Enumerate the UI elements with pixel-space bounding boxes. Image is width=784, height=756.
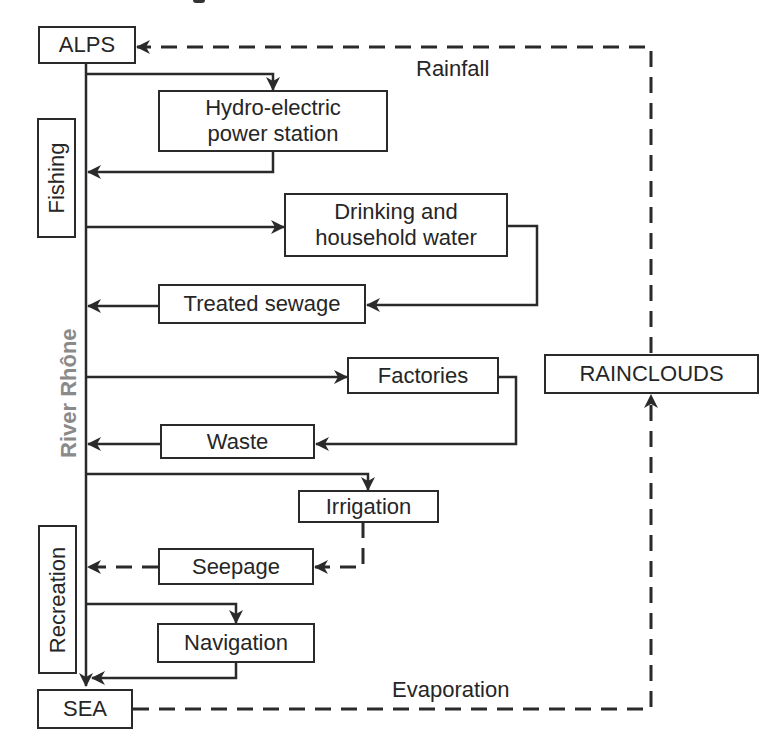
node-treated-sewage-label: Treated sewage [184, 291, 341, 317]
node-fishing-label: Fishing [44, 143, 70, 214]
node-rainclouds-label: RAINCLOUDS [579, 361, 723, 387]
node-waste-label: Waste [207, 429, 269, 455]
node-navigation: Navigation [157, 623, 315, 663]
node-recreation: Recreation [38, 525, 77, 674]
node-recreation-label: Recreation [45, 546, 71, 652]
edge-label-evaporation: Evaporation [392, 677, 509, 703]
edge-river-to-navigation [86, 604, 236, 623]
node-seepage: Seepage [158, 548, 314, 585]
node-navigation-label: Navigation [184, 630, 288, 656]
edge-navigation-to-sea [92, 662, 236, 678]
river-rhone-label: River Rhône [56, 328, 82, 458]
edge-irrigation-to-seepage [315, 522, 363, 567]
node-hydro-electric: Hydro-electric power station [158, 90, 388, 152]
node-alps: ALPS [38, 26, 136, 64]
node-fishing: Fishing [37, 118, 76, 238]
node-waste: Waste [160, 424, 315, 459]
node-treated-sewage: Treated sewage [158, 284, 366, 324]
node-irrigation: Irrigation [298, 490, 439, 523]
node-rainclouds: RAINCLOUDS [544, 354, 759, 394]
node-sea: SEA [37, 689, 133, 729]
node-factories: Factories [347, 357, 499, 394]
node-seepage-label: Seepage [192, 554, 280, 580]
node-alps-label: ALPS [59, 32, 115, 58]
node-irrigation-label: Irrigation [326, 494, 412, 520]
edge-river-to-hydro [86, 74, 273, 90]
node-drinking-water: Drinking and household water [284, 193, 508, 257]
node-drinking-line1: Drinking and [334, 199, 458, 225]
edge-hydro-to-river [88, 152, 273, 172]
edge-river-to-irrigation [86, 474, 368, 490]
node-hydro-line2: power station [208, 121, 339, 147]
node-hydro-line1: Hydro-electric [205, 95, 341, 121]
edge-label-rainfall: Rainfall [416, 56, 489, 82]
node-drinking-line2: household water [315, 225, 476, 251]
node-factories-label: Factories [378, 363, 468, 389]
node-sea-label: SEA [63, 696, 107, 722]
